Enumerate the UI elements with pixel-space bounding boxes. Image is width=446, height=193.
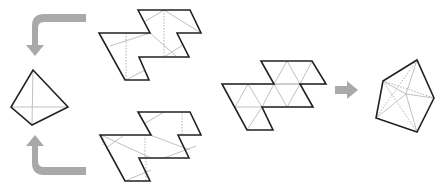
- middle-net: [222, 61, 326, 130]
- result-solid: [376, 60, 434, 132]
- bottom-net: [100, 112, 201, 181]
- curved-arrow-up-icon: [26, 135, 86, 175]
- top-net: [99, 10, 201, 80]
- arrow-right-icon: [335, 81, 358, 99]
- curved-arrow-down-icon: [26, 14, 86, 56]
- diagram-canvas: [0, 0, 446, 193]
- tetrahedron: [11, 70, 68, 125]
